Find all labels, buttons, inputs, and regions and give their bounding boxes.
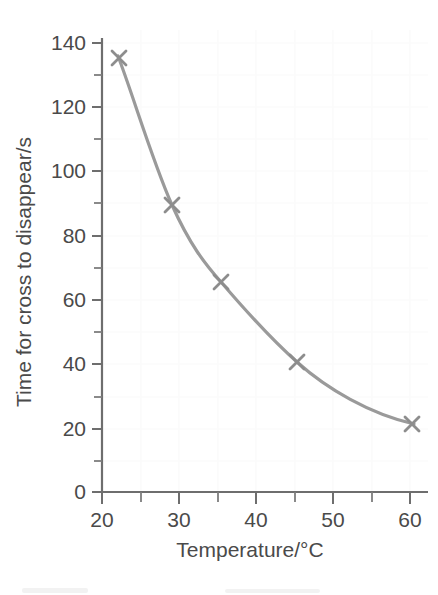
y-tick-label: 140: [51, 31, 86, 54]
x-tick-labels: 20 30 40 50 60: [90, 508, 421, 531]
y-tick-labels: 140 120 100 80 60 40 20 0: [51, 31, 86, 503]
gridlines: [102, 30, 428, 492]
y-tick-label: 60: [63, 288, 86, 311]
y-tick-label: 80: [63, 224, 86, 247]
y-tick-label: 120: [51, 95, 86, 118]
data-point-marker: [290, 355, 304, 369]
x-axis-title: Temperature/°C: [176, 538, 323, 561]
y-tick-label: 40: [63, 352, 86, 375]
y-tick-label: 100: [51, 159, 86, 182]
y-axis-ticks: [92, 43, 102, 492]
data-curve: [118, 56, 414, 424]
data-markers: [112, 51, 419, 431]
y-tick-label: 20: [63, 417, 86, 440]
y-tick-label: 0: [74, 480, 86, 503]
x-tick-label: 40: [244, 508, 267, 531]
data-point-marker: [165, 198, 179, 212]
data-point-marker: [214, 275, 228, 289]
chart-container: 140 120 100 80 60 40 20 0 20 30 40 50 60…: [0, 0, 438, 595]
x-axis-ticks: [102, 492, 410, 504]
x-tick-label: 30: [167, 508, 190, 531]
x-tick-label: 20: [90, 508, 113, 531]
line-chart: 140 120 100 80 60 40 20 0 20 30 40 50 60…: [0, 0, 438, 595]
scan-artifact: [22, 588, 320, 593]
x-tick-label: 60: [398, 508, 421, 531]
x-tick-label: 50: [321, 508, 344, 531]
y-axis-title: Time for cross to disappear/s: [12, 137, 35, 407]
